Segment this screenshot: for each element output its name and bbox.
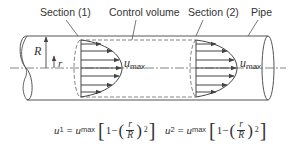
leader-lines	[66, 20, 258, 40]
radius-R-label: R	[34, 45, 41, 57]
section-1-label: Section (1)	[40, 7, 91, 18]
pipe-label: Pipe	[251, 7, 272, 18]
equation-u1: u1 = umax [ 1− ( rR ) 2 ]	[54, 120, 156, 140]
pipe-flow-diagram: Section (1) Control volume Section (2) P…	[0, 0, 288, 148]
radius-arrows	[46, 37, 54, 68]
velocity-profile-section-2	[196, 40, 237, 97]
control-volume-label: Control volume	[109, 7, 180, 18]
r-label: r	[58, 58, 62, 69]
velocity-profile-section-1	[81, 40, 122, 97]
umax-label-section-1: umax	[124, 57, 145, 71]
umax-label-section-2: umax	[240, 57, 261, 71]
section-2-label: Section (2)	[188, 7, 239, 18]
equation-u2: u2 = umax [ 1− ( rR ) 2 ]	[165, 120, 267, 140]
